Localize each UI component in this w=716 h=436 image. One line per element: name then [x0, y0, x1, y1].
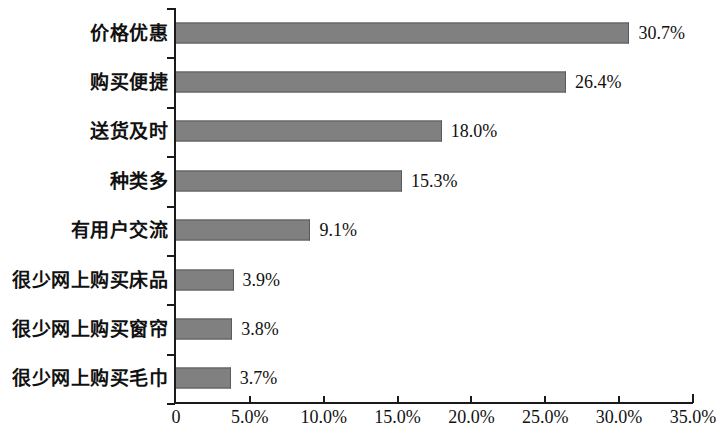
bar-value-label: 3.8% — [241, 320, 279, 338]
table-row: 很少网上购买窗帘3.8% — [0, 304, 708, 353]
bar-value-label: 18.0% — [451, 122, 498, 140]
category-label: 有用户交流 — [71, 221, 175, 240]
category-label: 送货及时 — [90, 122, 174, 141]
bar — [176, 170, 402, 191]
bar — [176, 319, 232, 340]
x-axis-tick-label: 15.0% — [374, 408, 421, 426]
x-axis-tick-label: 25.0% — [522, 408, 569, 426]
x-axis-tick-label: 5.0% — [231, 408, 269, 426]
category-label: 很少网上购买床品 — [12, 270, 174, 289]
bar — [176, 368, 231, 389]
bar — [176, 220, 310, 241]
table-row: 种类多15.3% — [0, 156, 708, 205]
table-row: 很少网上购买床品3.9% — [0, 255, 708, 304]
table-row: 送货及时18.0% — [0, 107, 708, 156]
x-axis-tick-label: 0 — [172, 408, 181, 426]
bar — [176, 22, 629, 43]
category-label: 价格优惠 — [90, 23, 174, 42]
table-row: 价格优惠30.7% — [0, 8, 708, 57]
category-label: 购买便捷 — [90, 73, 174, 92]
bar-value-label: 3.7% — [240, 369, 278, 387]
category-label: 很少网上购买毛巾 — [12, 369, 174, 388]
bar-value-label: 9.1% — [319, 221, 357, 239]
bar-value-label: 15.3% — [411, 172, 458, 190]
x-axis-tick-label: 35.0% — [670, 408, 716, 426]
bar — [176, 269, 234, 290]
x-axis-tick-label: 30.0% — [596, 408, 643, 426]
x-axis-tick-label: 10.0% — [300, 408, 347, 426]
y-axis-tick — [167, 403, 175, 405]
category-label: 种类多 — [110, 171, 175, 190]
table-row: 有用户交流9.1% — [0, 206, 708, 255]
bar-value-label: 30.7% — [638, 24, 685, 42]
table-row: 很少网上购买毛巾3.7% — [0, 354, 708, 403]
bar — [176, 72, 566, 93]
bar-value-label: 3.9% — [243, 271, 281, 289]
x-axis-tick-label: 20.0% — [448, 408, 495, 426]
table-row: 购买便捷26.4% — [0, 57, 708, 106]
bar-value-label: 26.4% — [575, 73, 622, 91]
category-label: 很少网上购买窗帘 — [12, 320, 174, 339]
bar — [176, 121, 442, 142]
